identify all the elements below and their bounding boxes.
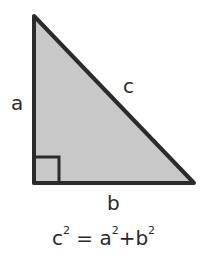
formula-plus: +: [119, 226, 136, 250]
formula-equals: =: [76, 226, 93, 250]
pythagorean-formula: c2 = a2+b2: [0, 226, 207, 250]
formula-b-exp: 2: [148, 224, 155, 237]
label-side-a: a: [11, 93, 23, 113]
triangle-figure: [0, 0, 207, 258]
formula-c: c: [52, 226, 63, 250]
formula-a-exp: 2: [112, 224, 119, 237]
formula-a: a: [99, 226, 111, 250]
formula-b: b: [135, 226, 148, 250]
formula-c-exp: 2: [63, 224, 70, 237]
label-side-c: c: [123, 76, 134, 96]
label-side-b: b: [107, 193, 120, 213]
